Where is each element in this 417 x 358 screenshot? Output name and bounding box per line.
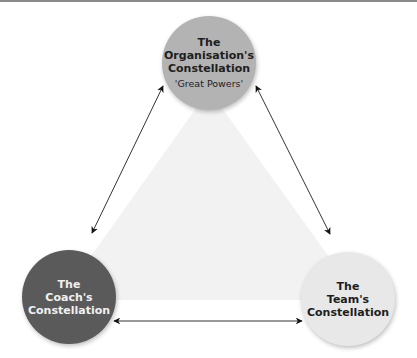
node-title-line: Team's: [327, 293, 369, 306]
node-title-line: Constellation: [168, 62, 250, 75]
node-title-line: Constellation: [307, 306, 389, 319]
node-title-line: The: [58, 278, 81, 291]
node-title-line: Organisation's: [164, 49, 254, 62]
node-title-line: The: [198, 36, 221, 49]
node-coach-constellation: The Coach's Constellation: [22, 250, 116, 344]
node-title-line: Coach's: [45, 291, 92, 304]
node-title-line: Constellation: [28, 304, 110, 317]
node-organisation-constellation: The Organisation's Constellation 'Great …: [162, 16, 256, 110]
node-subtitle: 'Great Powers': [175, 77, 243, 90]
node-title-line: The: [337, 280, 360, 293]
node-team-constellation: The Team's Constellation: [301, 252, 395, 346]
